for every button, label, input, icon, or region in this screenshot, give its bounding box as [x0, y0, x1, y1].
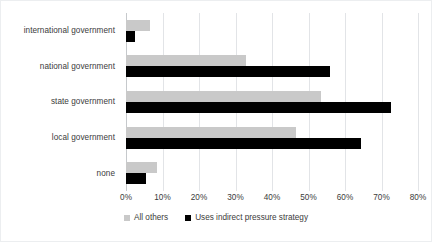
bar-group	[126, 84, 418, 120]
bar-indirect-pressure	[126, 31, 135, 42]
legend-label: All others	[134, 213, 168, 222]
bar-indirect-pressure	[126, 138, 361, 149]
y-axis-label: national government	[40, 49, 115, 85]
legend-swatch-icon	[185, 215, 191, 221]
legend-item-all-others[interactable]: All others	[124, 213, 168, 222]
x-axis-tick: 80%	[410, 193, 426, 202]
y-axis-category-labels: international government national govern…	[1, 13, 121, 191]
legend-item-indirect-pressure[interactable]: Uses indirect pressure strategy	[185, 213, 308, 222]
y-axis-label: none	[97, 155, 115, 191]
bar-all-others	[126, 55, 246, 66]
bar-all-others	[126, 162, 157, 173]
legend-label: Uses indirect pressure strategy	[195, 213, 308, 222]
x-axis-tick-labels: 0% 10% 20% 30% 40% 50% 60% 70% 80%	[126, 193, 418, 207]
y-axis-label: local government	[52, 120, 115, 156]
bar-chart: international government national govern…	[0, 0, 432, 242]
bar-group	[126, 49, 418, 85]
chart-legend: All others Uses indirect pressure strate…	[1, 213, 431, 222]
bar-group	[126, 120, 418, 156]
bar-all-others	[126, 127, 296, 138]
bar-all-others	[126, 91, 321, 102]
bar-all-others	[126, 20, 150, 31]
bar-group	[126, 13, 418, 49]
bar-indirect-pressure	[126, 102, 391, 113]
x-axis-tick: 0%	[120, 193, 132, 202]
bar-indirect-pressure	[126, 173, 146, 184]
legend-swatch-icon	[124, 215, 130, 221]
x-axis-tick: 40%	[264, 193, 280, 202]
x-axis-tick: 10%	[154, 193, 170, 202]
y-axis-label: state government	[51, 84, 115, 120]
x-axis-tick: 20%	[191, 193, 207, 202]
plot-area	[126, 13, 418, 191]
gridline-80	[418, 13, 419, 191]
x-axis-tick: 70%	[373, 193, 389, 202]
bar-indirect-pressure	[126, 66, 330, 77]
bar-group	[126, 155, 418, 191]
y-axis-label: international government	[24, 13, 115, 49]
bar-rows	[126, 13, 418, 191]
x-axis-tick: 60%	[337, 193, 353, 202]
x-axis-tick: 30%	[227, 193, 243, 202]
x-axis-tick: 50%	[300, 193, 316, 202]
